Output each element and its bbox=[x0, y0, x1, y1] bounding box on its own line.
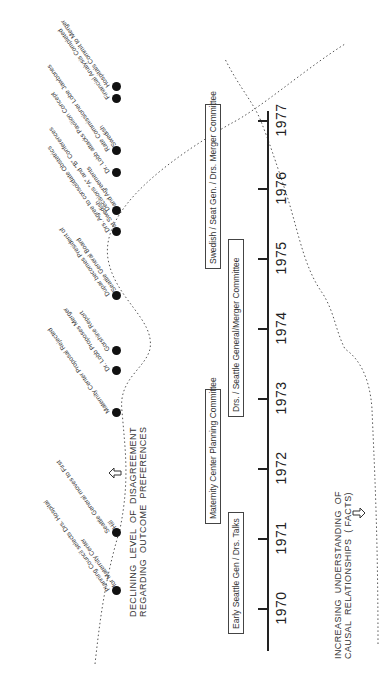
event-dot bbox=[112, 408, 121, 417]
committee-box: Drs. / Seattle General/Merger Committee bbox=[228, 239, 244, 417]
year-label: 1974 bbox=[273, 311, 289, 344]
tick-1977 bbox=[258, 120, 268, 122]
year-label: 1977 bbox=[273, 103, 289, 136]
tick-1972 bbox=[258, 468, 268, 470]
event-dot bbox=[112, 168, 121, 177]
year-label: 1975 bbox=[273, 241, 289, 274]
committee-box: Early Seattle Gen / Drs. Talks bbox=[228, 512, 244, 634]
tick-1976 bbox=[258, 188, 268, 190]
tick-1975 bbox=[258, 258, 268, 260]
committee-box: Swedish / Seat Gen. / Drs. Merger Commit… bbox=[205, 104, 221, 269]
timeline-diagram: 1970 1971 1972 1973 1974 1975 1976 1977 … bbox=[0, 0, 384, 679]
tick-1974 bbox=[258, 328, 268, 330]
year-label: 1972 bbox=[273, 451, 289, 484]
up-arrow-icon bbox=[108, 467, 122, 479]
understanding-caption: INCREASING UNDERSTANDING OF CAUSAL RELAT… bbox=[333, 491, 353, 659]
event-dot bbox=[112, 346, 121, 355]
tick-1971 bbox=[258, 538, 268, 540]
year-label: 1971 bbox=[273, 521, 289, 554]
event-dot bbox=[112, 528, 121, 537]
time-axis bbox=[267, 111, 269, 651]
committee-box: Maternity Center Planning Committee bbox=[205, 389, 221, 524]
year-label: 1976 bbox=[273, 171, 289, 204]
event-dot bbox=[112, 366, 121, 375]
event-dot bbox=[112, 586, 121, 595]
event-dot bbox=[112, 227, 121, 236]
disagreement-caption: DECLINING LEVEL OF DISAGREEMENT REGARDIN… bbox=[128, 427, 148, 617]
event-dot bbox=[112, 94, 121, 103]
event-dot bbox=[112, 206, 121, 215]
tick-1970 bbox=[258, 608, 268, 610]
event-dot bbox=[112, 291, 121, 300]
year-label: 1973 bbox=[273, 381, 289, 414]
tick-1973 bbox=[258, 398, 268, 400]
event-dot bbox=[112, 82, 121, 91]
event-dot bbox=[112, 146, 121, 155]
year-label: 1970 bbox=[273, 591, 289, 624]
understanding-curve bbox=[225, 59, 378, 644]
down-arrow-icon bbox=[352, 507, 366, 519]
